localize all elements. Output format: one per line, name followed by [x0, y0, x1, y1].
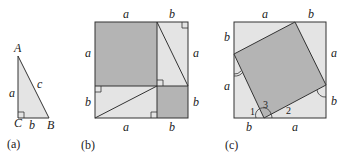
- side-c-label: c: [37, 77, 43, 91]
- left-label-a: a: [85, 46, 91, 60]
- square-a-squared: [95, 22, 157, 86]
- right-label-b: b: [193, 95, 199, 109]
- bottom-label-b: b: [246, 120, 252, 134]
- top-label-a: a: [262, 7, 268, 21]
- right-label-a: a: [331, 46, 337, 60]
- panel-b: a b a b a b a b (b): [81, 7, 199, 152]
- bottom-label-a: a: [292, 120, 298, 134]
- right-label-b: b: [331, 94, 337, 108]
- side-a-label: a: [9, 86, 15, 100]
- square-b-squared: [157, 86, 188, 118]
- left-label-b: b: [85, 95, 91, 109]
- pythagorean-proof-figure: A C B a b c (a) a b a b a b a b (b): [0, 0, 344, 159]
- panel-a: A C B a b c (a): [7, 41, 55, 151]
- top-label-b: b: [308, 7, 314, 21]
- vertex-A: A: [13, 41, 22, 55]
- top-label-b: b: [169, 7, 175, 21]
- bottom-label-a: a: [123, 120, 129, 134]
- angle-label-3: 3: [263, 99, 268, 110]
- left-label-a: a: [224, 79, 230, 93]
- panel-c: a b b a a b b a 1 3 2 (c): [224, 7, 337, 152]
- vertex-C: C: [14, 116, 23, 130]
- angle-label-2: 2: [286, 105, 291, 116]
- vertex-B: B: [47, 118, 55, 132]
- side-b-label: b: [29, 118, 35, 132]
- right-triangle: [18, 56, 49, 118]
- caption-a: (a): [7, 137, 20, 151]
- angle-label-1: 1: [250, 106, 255, 117]
- right-label-a: a: [193, 46, 199, 60]
- caption-c: (c): [225, 138, 238, 152]
- left-label-b: b: [224, 30, 230, 44]
- caption-b: (b): [81, 138, 95, 152]
- bottom-label-b: b: [169, 120, 175, 134]
- top-label-a: a: [123, 7, 129, 21]
